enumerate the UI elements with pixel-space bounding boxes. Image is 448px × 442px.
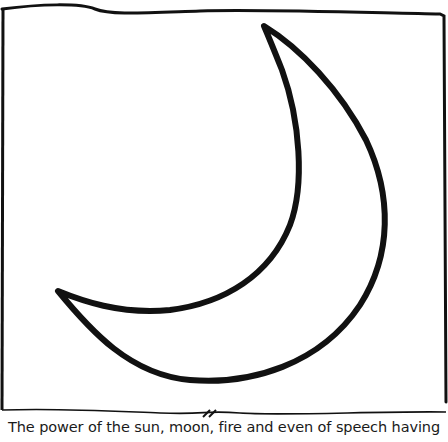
divider-mark-icon: [203, 410, 216, 417]
panel-border-left: [2, 9, 3, 410]
caption-text: The power of the sun, moon, fire and eve…: [0, 419, 448, 435]
crescent-moon-icon: [58, 26, 385, 381]
divider-line: [2, 409, 446, 414]
illustration-panel: [0, 0, 448, 442]
